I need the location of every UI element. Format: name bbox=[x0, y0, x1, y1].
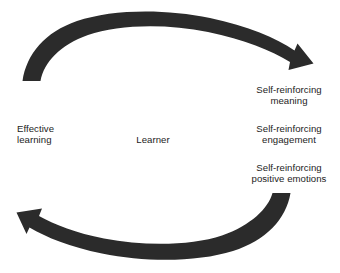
top-arc-arrow bbox=[23, 11, 314, 81]
label-self-reinforcing-engagement: Self-reinforcing engagement bbox=[240, 123, 338, 146]
label-self-reinforcing-meaning: Self-reinforcing meaning bbox=[240, 84, 338, 107]
label-self-reinforcing-positive-emotions: Self-reinforcing positive emotions bbox=[240, 162, 338, 185]
cycle-diagram: Self-reinforcing meaning Self-reinforcin… bbox=[0, 0, 340, 273]
bottom-arc-arrow bbox=[17, 193, 291, 260]
label-effective-learning: Effective learning bbox=[17, 123, 95, 146]
label-learner: Learner bbox=[114, 134, 192, 145]
